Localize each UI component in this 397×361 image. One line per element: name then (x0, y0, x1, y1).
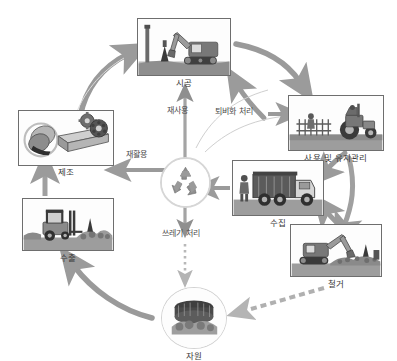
construction-label: 시공 (137, 78, 231, 88)
arrow-construction-to-use (236, 44, 300, 82)
arrow-demolition-to-resource-dashed (244, 288, 324, 311)
demolition-image (290, 224, 382, 277)
edge-label-composting: 퇴비화 처리 (215, 107, 253, 116)
use-maintenance-image (288, 95, 384, 151)
arrow-manufacturing-to-construction (80, 54, 128, 117)
recycle-symbol[interactable] (160, 157, 211, 208)
garbage-truck-icon (233, 161, 323, 215)
manufacturing-image (18, 110, 114, 166)
export-image (22, 198, 114, 251)
recycle-icon (162, 159, 209, 206)
arrow-resource-to-export (74, 266, 152, 318)
steel-beam-gear-icon (19, 111, 113, 165)
demolition-excavator-icon (291, 225, 381, 276)
edge-label-reuse: 재사용 (167, 106, 188, 115)
excavator-icon (138, 19, 230, 75)
export-label: 수출 (22, 253, 114, 263)
collection-image (232, 160, 324, 216)
tractor-icon (289, 96, 383, 150)
arrow-use-to-demolition (344, 158, 353, 226)
resource-label: 자원 (151, 351, 237, 361)
resource-image (161, 287, 227, 349)
guide-curve-composting (196, 90, 286, 152)
forklift-icon (23, 199, 113, 250)
steel-stack-icon (162, 288, 226, 348)
diagram-canvas: 시공 (0, 0, 397, 361)
edge-label-waste: 쓰레기 처리 (162, 229, 200, 238)
demolition-label: 철거 (290, 279, 382, 289)
edge-label-recycle: 재활용 (126, 150, 147, 159)
manufacturing-label: 제조 (36, 167, 96, 177)
construction-image (137, 18, 231, 76)
